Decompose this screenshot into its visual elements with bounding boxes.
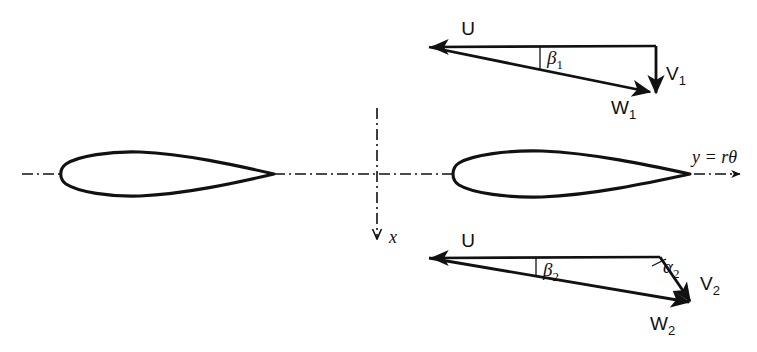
inlet-blade-speed-label: U — [461, 18, 475, 39]
outlet-absolute-velocity-label: V2 — [700, 273, 720, 298]
blade-profiles — [61, 151, 690, 197]
inlet-relative-velocity-label: W1 — [611, 97, 636, 122]
outlet-velocity-triangle: U V2 W2 β2 α2 — [429, 230, 720, 338]
inlet-blade-speed-vector — [432, 46, 656, 47]
blade-lower-outline — [453, 151, 690, 197]
blade-upper-outline — [61, 152, 274, 196]
inlet-absolute-velocity-label: V1 — [666, 63, 686, 88]
outlet-blade-speed-vector — [432, 257, 660, 258]
diagram-canvas: U V1 W1 β1 — [0, 0, 757, 352]
inlet-velocity-triangle: U V1 W1 β1 — [429, 18, 686, 122]
outlet-absolute-flow-angle-label: α2 — [663, 256, 679, 281]
tangential-axis-label: y = rθ — [690, 147, 737, 167]
outlet-blade-speed-label: U — [461, 230, 475, 251]
axial-axis-label: x — [388, 227, 397, 247]
velocity-triangle-diagram: U V1 W1 β1 — [0, 0, 757, 352]
outlet-relative-velocity-vector — [429, 258, 689, 302]
outlet-relative-flow-angle-label: β2 — [542, 259, 559, 284]
outlet-relative-velocity-label: W2 — [650, 313, 675, 338]
inlet-relative-flow-angle-label: β1 — [546, 47, 563, 72]
